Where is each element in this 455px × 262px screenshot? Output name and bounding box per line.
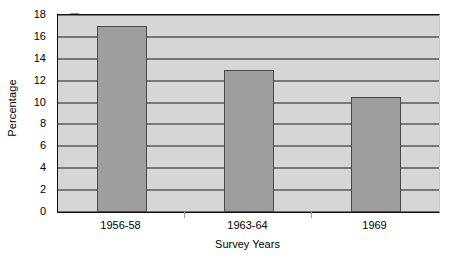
y-axis-tick-label: 8 <box>40 117 46 129</box>
y-axis-tick-label: 2 <box>40 183 46 195</box>
x-axis-tick-label: 1956-58 <box>100 219 140 231</box>
y-axis-tick-label: 12 <box>34 74 46 86</box>
bar-chart: Percentage 024681012141618 1956-581963-6… <box>0 0 455 262</box>
y-axis-title-label: Percentage <box>6 79 18 136</box>
bar <box>224 70 274 212</box>
x-axis-title: Survey Years <box>57 238 438 250</box>
x-axis-tick-mark <box>311 211 312 218</box>
y-axis-tick-label: 0 <box>40 205 46 217</box>
y-axis-tick-label: 14 <box>34 52 46 64</box>
y-axis-tick-label: 16 <box>34 30 46 42</box>
x-axis-tick-marks <box>57 211 438 219</box>
y-axis-title: Percentage <box>2 0 22 215</box>
y-axis-tick-label: 6 <box>40 139 46 151</box>
y-axis-tick-label: 4 <box>40 161 46 173</box>
bar <box>97 26 147 212</box>
bar <box>351 97 401 212</box>
gridline <box>58 15 439 16</box>
y-axis-tick-labels: 024681012141618 <box>22 14 46 211</box>
x-axis-tick-label: 1963-64 <box>227 219 267 231</box>
x-axis-tick-labels: 1956-581963-641969 <box>57 219 438 235</box>
plot-area <box>57 14 440 213</box>
y-axis-tick-label: 10 <box>34 96 46 108</box>
x-axis-tick-mark <box>184 211 185 218</box>
x-axis-tick-label: 1969 <box>362 219 386 231</box>
y-axis-tick-label: 18 <box>34 8 46 20</box>
